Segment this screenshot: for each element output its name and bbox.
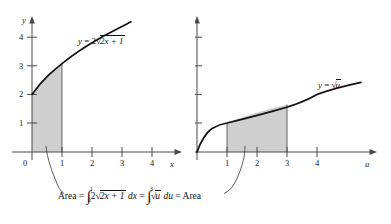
right-plot-svg: 1 2 3 4 0 1 2 3 4 u y xyxy=(195,0,391,224)
left-leader-line xyxy=(46,146,64,194)
left-x-ticklabel-0: 0 xyxy=(23,158,27,168)
right-curve-equation-label: y = √u xyxy=(318,80,341,90)
caption-area-right: Area xyxy=(183,191,201,201)
left-eq-radicand: 2x + 1 xyxy=(100,35,125,46)
left-y-ticklabel-3: 3 xyxy=(19,61,23,71)
left-x-ticklabel-2: 2 xyxy=(90,158,94,168)
right-x-ticklabel-4: 4 xyxy=(315,158,320,168)
left-eq-y: y xyxy=(78,36,82,46)
left-y-ticklabel-4: 4 xyxy=(19,32,24,42)
left-x-axis-arrow-icon xyxy=(175,149,183,155)
left-x-ticklabel-4: 4 xyxy=(150,158,155,168)
left-x-axis-label: x xyxy=(169,159,174,169)
integral-2-upper-limit: 3 xyxy=(150,186,153,192)
left-eq-equals: = xyxy=(84,36,89,46)
integrand-2-radicand: u xyxy=(155,190,161,201)
right-x-ticklabel-1: 1 xyxy=(225,158,229,168)
right-eq-equals: = xyxy=(324,80,329,90)
right-x-ticklabel-3: 3 xyxy=(285,158,289,168)
differential-2: du xyxy=(163,191,173,201)
right-x-axis-arrow-icon xyxy=(370,149,378,155)
right-eq-radicand: u xyxy=(336,79,342,90)
integral-2-lower-limit: 1 xyxy=(148,197,151,203)
right-shaded-area xyxy=(227,105,287,153)
right-y-axis-arrow-icon xyxy=(195,16,200,24)
left-y-ticklabel-1: 1 xyxy=(19,118,23,128)
caption-equals-1: = xyxy=(79,191,84,201)
right-eq-y: y xyxy=(318,80,322,90)
integral-1-lower-limit: 0 xyxy=(88,197,91,203)
caption-equals-2: = xyxy=(139,191,144,201)
integral-1-upper-limit: 1 xyxy=(90,186,93,192)
figure-two-integral-graphs: 1 2 3 4 0 1 2 3 4 x y y = 2√2x + 1 xyxy=(0,0,391,224)
caption-area-left: Area xyxy=(58,191,76,201)
left-x-ticklabel-3: 3 xyxy=(120,158,124,168)
left-x-ticklabel-1: 1 xyxy=(60,158,64,168)
integrand-1-radicand: 2x + 1 xyxy=(100,190,126,201)
differential-1: dx xyxy=(128,191,137,201)
left-curve-equation-label: y = 2√2x + 1 xyxy=(78,36,125,46)
left-y-axis-arrow-icon xyxy=(29,16,35,24)
right-x-axis-label: u xyxy=(365,159,369,169)
caption-equals-3: = xyxy=(175,191,180,201)
left-y-axis-label: y xyxy=(21,15,26,25)
left-y-ticklabel-2: 2 xyxy=(19,89,23,99)
right-x-ticklabel-2: 2 xyxy=(255,158,259,168)
caption-area-equality: Area = ∫102√2x + 1 dx = ∫31√u du = Area xyxy=(58,191,201,201)
